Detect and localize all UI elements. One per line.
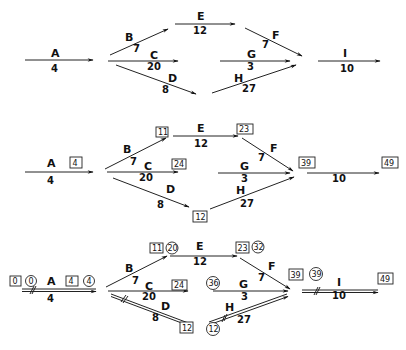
activity-label: A [47, 157, 56, 170]
activity-duration: 27 [237, 314, 251, 325]
early-time-value: 24 [174, 281, 184, 290]
activity-duration: 27 [240, 198, 254, 209]
critical-tick [314, 287, 318, 295]
activity-label: A [51, 47, 60, 60]
activity-duration: 4 [47, 293, 54, 304]
activity-duration: 3 [241, 173, 248, 184]
activity-label: A [47, 275, 56, 288]
activity-duration: 20 [142, 291, 156, 302]
activity-a: A 4 [25, 47, 93, 74]
activity-duration: 8 [162, 84, 169, 95]
activity-duration: 20 [139, 172, 153, 183]
activity-duration: 12 [193, 256, 207, 267]
early-time-value: 23 [239, 125, 249, 134]
activity-b: B 7 [110, 29, 168, 55]
activity-h: H 27 [210, 177, 294, 209]
activity-duration: 10 [332, 173, 346, 184]
stage-1-network: A 4 B 7 C 20 D 8 E 12 F 7 [25, 10, 380, 95]
activity-label: E [197, 122, 205, 135]
activity-label: F [270, 142, 278, 155]
late-time-value: 20 [168, 244, 178, 253]
activity-a: A 4 4 [25, 157, 93, 186]
activity-duration: 7 [262, 39, 269, 50]
activity-c: C 20 24 [107, 159, 186, 183]
critical-tick [30, 286, 34, 294]
late-time-value: 39 [312, 270, 322, 279]
activity-label: E [196, 240, 204, 253]
activity-label: G [239, 278, 248, 291]
activity-duration: 12 [194, 138, 208, 149]
activity-g: G 3 [220, 48, 290, 72]
activity-label: G [247, 48, 256, 61]
early-time-value: 12 [182, 324, 192, 333]
early-time-value: 11 [158, 128, 168, 137]
activity-duration: 7 [258, 272, 265, 283]
early-time-value: 24 [174, 160, 184, 169]
activity-label: B [123, 143, 131, 156]
early-time-value: 23 [238, 244, 248, 253]
activity-duration: 7 [258, 152, 265, 163]
activity-label: F [272, 29, 280, 42]
early-time-value: 4 [73, 159, 78, 168]
activity-duration: 3 [241, 291, 248, 302]
late-time-value: 12 [209, 325, 219, 334]
activity-duration: 7 [133, 43, 140, 54]
activity-label: D [166, 183, 175, 196]
late-time-value: 36 [209, 279, 219, 288]
activity-label: I [343, 47, 347, 60]
early-time-value: 4 [69, 277, 74, 286]
early-time-value: 39 [291, 271, 301, 280]
activity-g: G 3 [218, 160, 290, 184]
stage-2-earliest-times: A 4 4 B 7 11 C 20 24 D 8 12 E [25, 122, 398, 222]
cpm-network-diagram: A 4 B 7 C 20 D 8 E 12 F 7 [0, 0, 406, 350]
activity-i: 10 49 [307, 157, 398, 184]
activity-h: H 27 [212, 65, 296, 94]
activity-duration: 4 [47, 175, 54, 186]
activity-e: E 12 [175, 10, 235, 36]
activity-duration: 8 [157, 199, 164, 210]
arrow-f [242, 138, 293, 171]
activity-b: B 7 11 20 [106, 242, 178, 287]
activity-b: B 7 11 [105, 127, 168, 169]
activity-duration: 10 [332, 290, 346, 301]
activity-label: E [197, 10, 205, 23]
early-time-value: 11 [152, 244, 162, 253]
activity-duration: 20 [147, 61, 161, 72]
activity-label: B [125, 262, 133, 275]
activity-label: D [161, 300, 170, 313]
activity-duration: 7 [132, 275, 139, 286]
activity-label: G [240, 160, 249, 173]
activity-duration: 10 [340, 63, 354, 74]
early-time-value: 12 [196, 213, 206, 222]
activity-i: I 10 [318, 47, 380, 74]
activity-duration: 3 [247, 61, 254, 72]
activity-i: 39 I 10 49 [302, 268, 393, 302]
critical-tick [316, 287, 320, 295]
activity-e: E 12 23 [173, 122, 253, 149]
activity-label: D [168, 72, 177, 85]
activity-d: D 8 12 [113, 178, 207, 222]
activity-label: H [236, 184, 245, 197]
activity-duration: 8 [152, 312, 159, 323]
activity-label: I [337, 276, 341, 289]
activity-duration: 4 [51, 63, 58, 74]
activity-c: C 20 [108, 49, 178, 72]
activity-f: F 7 [242, 138, 293, 171]
activity-label: F [268, 260, 276, 273]
stage-3-critical-path: 0 0 A 4 4 4 B 7 11 20 C 20 24 [10, 240, 393, 336]
critical-tick [32, 286, 36, 294]
late-time-value: 0 [29, 277, 34, 286]
early-time-value: 49 [380, 275, 390, 284]
early-time-value: 0 [13, 277, 18, 286]
activity-duration: 7 [130, 156, 137, 167]
activity-e: E 12 23 32 [170, 240, 264, 267]
late-time-value: 32 [254, 243, 264, 252]
activity-label: H [225, 301, 234, 314]
activity-c: C 20 24 [108, 280, 188, 302]
early-time-value: 39 [301, 159, 311, 168]
activity-a: 0 0 A 4 4 4 [10, 275, 96, 304]
early-time-value: 49 [384, 159, 394, 168]
late-time-value: 4 [87, 277, 92, 286]
activity-duration: 12 [193, 25, 207, 36]
activity-duration: 27 [242, 83, 256, 94]
